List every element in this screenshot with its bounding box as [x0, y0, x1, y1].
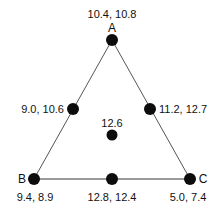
right-midpoint-value-label: 11.2, 12.7	[159, 103, 207, 115]
c-value-label: 5.0, 7.4	[170, 191, 207, 203]
node-dot-right-midpoint[interactable]	[144, 103, 156, 115]
node-dot-bottom-midpoint[interactable]	[106, 173, 118, 185]
vertex-label-b: B	[18, 173, 26, 186]
apex-value-label: 10.4, 10.8	[88, 8, 137, 20]
node-dot-a[interactable]	[106, 34, 118, 46]
b-value-label: 9.4, 8.9	[17, 191, 54, 203]
vertex-label-c: C	[199, 173, 208, 186]
node-dot-left-midpoint[interactable]	[67, 103, 79, 115]
node-dot-center[interactable]	[107, 130, 118, 141]
node-dot-b[interactable]	[28, 173, 40, 185]
center-value-label: 12.6	[101, 117, 122, 129]
node-dot-c[interactable]	[184, 173, 196, 185]
left-midpoint-value-label: 9.0, 10.6	[21, 103, 64, 115]
bottom-midpoint-value-label: 12.8, 12.4	[88, 191, 137, 203]
triangle-diagram: 10.4, 10.8 A 9.0, 10.6 11.2, 12.7 12.6 B…	[0, 0, 222, 209]
